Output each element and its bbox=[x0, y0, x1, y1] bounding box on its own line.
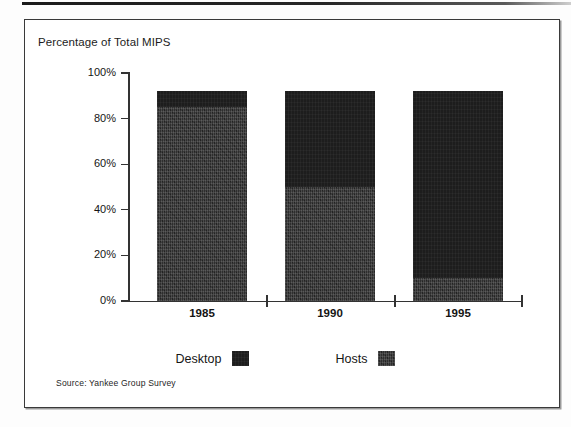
scanned-page: Percentage of Total MIPS 100%80%60%40%20… bbox=[0, 0, 571, 427]
legend-item-hosts[interactable]: Hosts bbox=[335, 351, 395, 366]
legend-label: Desktop bbox=[176, 352, 222, 366]
chart-title: Percentage of Total MIPS bbox=[38, 36, 171, 48]
chart-legend: DesktopHosts bbox=[0, 351, 571, 366]
legend-item-desktop[interactable]: Desktop bbox=[176, 351, 250, 366]
page-top-rule bbox=[22, 2, 571, 5]
source-note: Source: Yankee Group Survey bbox=[56, 378, 176, 388]
legend-swatch-desktop bbox=[232, 351, 249, 366]
legend-label: Hosts bbox=[335, 352, 367, 366]
chart-frame bbox=[24, 19, 560, 408]
legend-swatch-hosts bbox=[378, 351, 395, 366]
